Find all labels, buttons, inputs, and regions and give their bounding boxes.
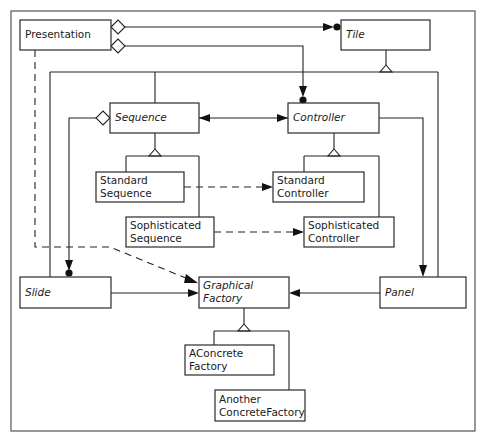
class-sophisticated-controller-line2: Controller [308, 232, 360, 244]
class-tile[interactable]: Tile [341, 20, 430, 50]
class-presentation[interactable]: Presentation [20, 20, 111, 50]
class-another-concrete-factory-line2: ConcreteFactory [219, 406, 305, 418]
class-standard-controller-line1: Standard [277, 174, 325, 186]
class-controller-name: Controller [293, 111, 346, 123]
presentation-tile-diamond-icon [111, 20, 125, 34]
controller-panel-arrowhead-icon [419, 265, 427, 277]
class-graphical-factory[interactable]: Graphical Factory [199, 277, 289, 308]
class-panel-name: Panel [385, 286, 414, 298]
class-standard-controller[interactable]: Standard Controller [273, 172, 364, 202]
presentation-controller-diamond-icon [111, 39, 125, 53]
presentation-controller-arrowhead-icon [299, 86, 307, 97]
class-sophisticated-sequence[interactable]: Sophisticated Sequence [126, 217, 214, 247]
sophisticated-dependency-arrowhead-icon [293, 228, 304, 236]
class-aconcrete-factory-line2: Factory [189, 360, 227, 372]
class-sophisticated-controller-line1: Sophisticated [308, 219, 379, 231]
sequence-slide-aggregation [69, 118, 96, 265]
panel-graphicalfactory-arrowhead-icon [289, 289, 300, 297]
class-sophisticated-sequence-line2: Sequence [130, 232, 182, 244]
class-standard-controller-line2: Controller [277, 187, 329, 199]
presentation-tile-arrowhead-icon [323, 23, 334, 31]
class-aconcrete-factory[interactable]: AConcrete Factory [185, 345, 274, 375]
slide-graphicalfactory-arrowhead-icon [188, 289, 199, 297]
class-graphical-factory-line2: Factory [203, 292, 243, 304]
class-sophisticated-controller[interactable]: Sophisticated Controller [304, 217, 394, 247]
class-tile-name: Tile [346, 28, 365, 40]
presentation-tile-many-dot-icon [333, 23, 340, 30]
sequence-generalization-triangle-icon [149, 149, 161, 156]
class-panel[interactable]: Panel [380, 277, 466, 308]
controller-generalization-triangle-icon [328, 149, 340, 156]
tile-generalization-triangle-icon [380, 65, 392, 72]
class-presentation-name: Presentation [25, 28, 91, 40]
class-another-concrete-factory[interactable]: Another ConcreteFactory [215, 390, 305, 421]
sequence-slide-diamond-icon [96, 111, 110, 125]
sequence-slide-arrowhead-icon [65, 260, 73, 271]
class-standard-sequence[interactable]: Standard Sequence [96, 172, 184, 202]
class-sophisticated-sequence-line1: Sophisticated [130, 219, 201, 231]
controller-end-arrowhead-icon [277, 114, 288, 122]
class-slide-name: Slide [25, 286, 51, 298]
class-sequence-name: Sequence [115, 111, 167, 123]
graphicalfactory-generalization-triangle-icon [238, 324, 250, 331]
class-controller[interactable]: Controller [288, 103, 379, 133]
class-graphical-factory-line1: Graphical [203, 279, 253, 291]
presentation-controller-aggregation [125, 46, 303, 94]
class-standard-sequence-line2: Sequence [100, 187, 152, 199]
class-sequence[interactable]: Sequence [110, 103, 199, 133]
class-diagram: Presentation Tile Sequence Controller St… [0, 0, 486, 442]
class-slide[interactable]: Slide [20, 277, 111, 308]
class-another-concrete-factory-line1: Another [219, 393, 261, 405]
class-standard-sequence-line1: Standard [100, 174, 148, 186]
class-aconcrete-factory-line1: AConcrete [189, 347, 243, 359]
standard-dependency-arrowhead-icon [262, 183, 273, 191]
sequence-end-arrowhead-icon [199, 114, 210, 122]
sequence-slide-many-dot-icon [65, 269, 72, 276]
presentation-graphicalfactory-arrowhead-icon [184, 274, 198, 283]
